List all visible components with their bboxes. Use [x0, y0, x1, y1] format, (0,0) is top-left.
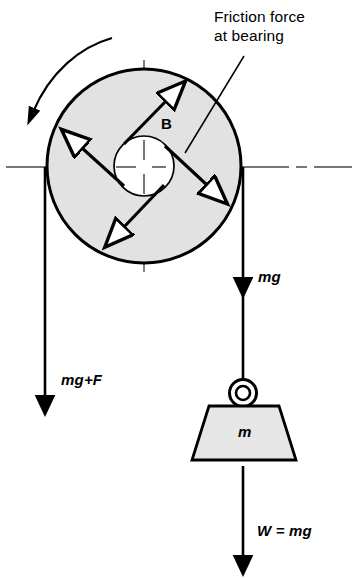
diagram-canvas	[0, 0, 352, 578]
bearing-point-label: B	[161, 115, 172, 133]
weight-force-label: W = mg	[257, 522, 312, 540]
block-mass-label: m	[238, 423, 252, 441]
hook-ring-icon	[230, 380, 257, 407]
left-tension-label: mg+F	[61, 371, 102, 389]
right-tension-label: mg	[258, 268, 281, 286]
physics-diagram-figure: Friction force at bearing B mg+F mg m W …	[0, 0, 352, 578]
callout-label-line1: Friction force	[214, 8, 305, 26]
callout-label-line2: at bearing	[214, 27, 284, 45]
pulley-disc	[47, 69, 241, 263]
